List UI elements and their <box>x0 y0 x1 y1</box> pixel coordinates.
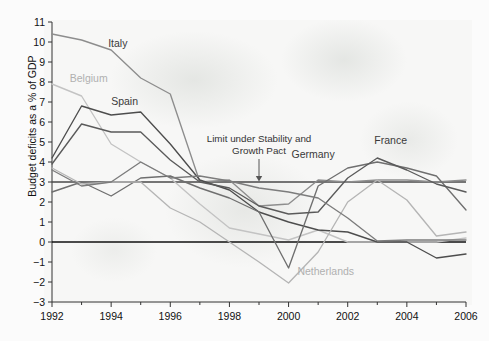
x-tick-label: 1998 <box>218 310 242 322</box>
x-tick-label: 2002 <box>336 310 360 322</box>
limit-annotation-line1: Limit under Stability and <box>207 133 312 144</box>
y-tick-label: 5 <box>39 136 45 148</box>
y-tick-label: −2 <box>33 276 45 288</box>
y-tick-label: 3 <box>39 176 45 188</box>
x-tick-label: 1992 <box>40 310 64 322</box>
y-tick-label: 11 <box>34 16 45 28</box>
y-tick-label: −3 <box>33 296 45 308</box>
x-tick-label: 1994 <box>99 310 123 322</box>
series-label-netherlands: Netherlands <box>297 265 354 277</box>
series-label-spain: Spain <box>111 95 138 107</box>
series-line-netherlands <box>52 168 466 283</box>
y-tick-label: 10 <box>33 36 45 48</box>
y-tick-label: 4 <box>39 156 45 168</box>
chart-plot-area: 11109876543210−1−2−3 1992199419961998200… <box>0 0 489 341</box>
limit-annotation-line2: Growth Pact <box>232 145 286 156</box>
y-tick-label: 0 <box>39 236 45 248</box>
series-label-belgium: Belgium <box>70 72 108 84</box>
y-tick-label: 2 <box>39 196 45 208</box>
series-label-italy: Italy <box>108 37 128 49</box>
series-label-germany: Germany <box>292 148 336 160</box>
y-tick-label: 7 <box>39 96 45 108</box>
chart-figure: Budget deficits as a % of GDP 1110987654… <box>0 0 489 341</box>
y-tick-label: 9 <box>39 56 45 68</box>
limit-annotation-arrowhead <box>256 176 262 182</box>
x-tick-label: 2004 <box>395 310 419 322</box>
data-series-group <box>52 34 466 283</box>
y-tick-label: 6 <box>39 116 45 128</box>
series-labels-group: ItalyBelgiumSpainGermanyFranceNetherland… <box>70 37 407 277</box>
y-tick-label: 8 <box>39 76 45 88</box>
x-axis-ticks: 19921994199619982000200220042006 <box>40 302 478 322</box>
x-tick-label: 2006 <box>454 310 478 322</box>
y-axis-ticks: 11109876543210−1−2−3 <box>33 16 52 308</box>
y-tick-label: −1 <box>33 256 45 268</box>
series-label-france: France <box>374 134 407 146</box>
x-tick-label: 1996 <box>159 310 183 322</box>
y-tick-label: 1 <box>39 216 45 228</box>
x-tick-label: 2000 <box>277 310 301 322</box>
